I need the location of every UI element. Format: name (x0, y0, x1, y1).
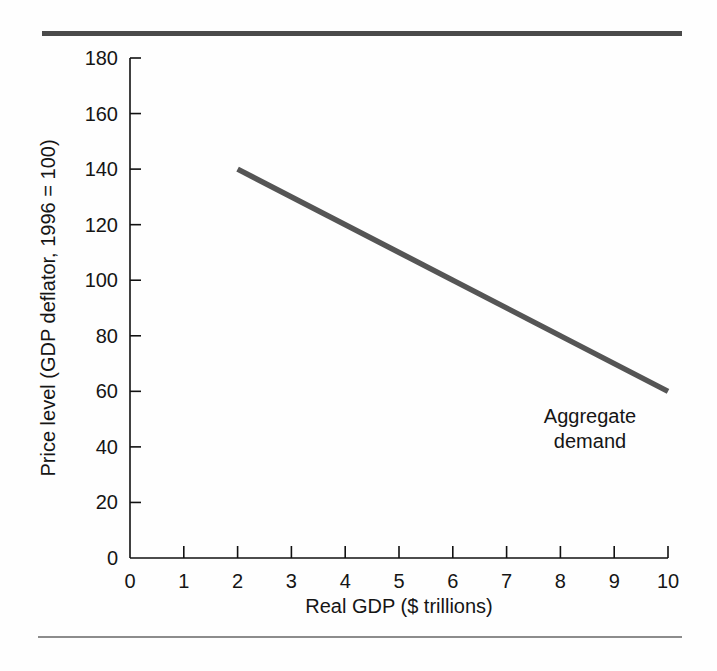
y-tick-label: 20 (58, 492, 118, 512)
x-tick-label: 6 (428, 571, 478, 591)
figure-container: 020406080100120140160180 012345678910 Pr… (0, 0, 717, 671)
y-tick-label: 100 (58, 270, 118, 290)
axes-group (130, 58, 668, 558)
x-tick-label: 0 (105, 571, 155, 591)
data-series-group (238, 169, 668, 391)
x-tick-label: 5 (374, 571, 424, 591)
x-tick-label: 4 (320, 571, 370, 591)
y-tick-label: 60 (58, 381, 118, 401)
annotation-line-0: Aggregate (505, 404, 675, 429)
x-tick-label: 10 (643, 571, 693, 591)
x-tick-label: 3 (266, 571, 316, 591)
y-tick-label: 180 (58, 48, 118, 68)
x-axis-title: Real GDP ($ trillions) (130, 596, 668, 616)
annotation-line-1: demand (505, 429, 675, 454)
aggregate-demand-annotation: Aggregatedemand (505, 404, 675, 454)
y-tick-label: 40 (58, 437, 118, 457)
x-tick-label: 1 (159, 571, 209, 591)
y-axis-title: Price level (GDP deflator, 1996 = 100) (38, 139, 58, 476)
series-line-0 (238, 169, 668, 391)
x-tick-label: 2 (213, 571, 263, 591)
y-tick-label: 160 (58, 104, 118, 124)
y-tick-label: 80 (58, 326, 118, 346)
y-tick-label: 120 (58, 215, 118, 235)
y-tick-label: 140 (58, 159, 118, 179)
x-tick-label: 7 (482, 571, 532, 591)
x-tick-label: 9 (589, 571, 639, 591)
y-tick-label: 0 (58, 548, 118, 568)
x-tick-label: 8 (535, 571, 585, 591)
